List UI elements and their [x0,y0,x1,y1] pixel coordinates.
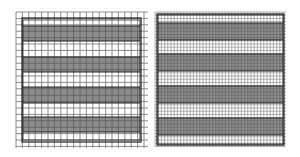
striped-grid-figure [0,0,300,157]
gray-band [23,26,140,41]
coarse-grid-panel [16,12,148,148]
gray-band [23,117,140,132]
fine-grid-panel [155,12,286,147]
